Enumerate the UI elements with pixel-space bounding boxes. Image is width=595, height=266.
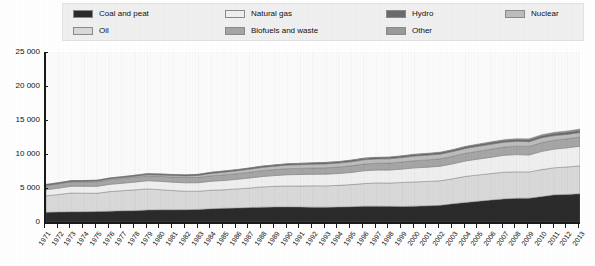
x-axis-tick-mark <box>44 224 45 228</box>
x-axis-tick-mark <box>489 224 490 228</box>
y-axis-tick-mark <box>44 120 48 121</box>
legend-column-3: HydroOther <box>386 4 433 38</box>
x-axis-tick-mark <box>476 224 477 228</box>
legend-label-gas: Natural gas <box>251 9 292 18</box>
legend-item-other: Other <box>386 23 433 38</box>
x-axis-tick-mark <box>171 224 172 228</box>
chart-legend: Coal and peatOil Natural gasBiofuels and… <box>62 3 584 41</box>
legend-label-oil: Oil <box>99 26 109 35</box>
x-axis-tick-mark <box>146 224 147 228</box>
x-axis-tick-mark <box>425 224 426 228</box>
x-axis-tick-mark <box>362 224 363 228</box>
y-axis-tick-mark <box>44 52 48 53</box>
y-axis-tick-label: 25 000 <box>2 48 40 56</box>
x-axis-tick-mark <box>464 224 465 228</box>
legend-column-4: Nuclear <box>505 4 559 21</box>
legend-label-nuclear: Nuclear <box>531 9 559 18</box>
legend-item-oil: Oil <box>73 23 149 38</box>
x-axis-tick-mark <box>69 224 70 228</box>
y-axis-tick-label: 10 000 <box>2 150 40 158</box>
x-axis-tick-mark <box>387 224 388 228</box>
x-axis-tick-mark <box>197 224 198 228</box>
y-axis-tick-label: 5 000 <box>2 184 40 192</box>
legend-swatch-gas <box>225 10 245 18</box>
legend-swatch-coal <box>73 10 93 18</box>
x-axis-tick-mark <box>375 224 376 228</box>
legend-column-1: Coal and peatOil <box>73 4 149 38</box>
chart-figure: Coal and peatOil Natural gasBiofuels and… <box>0 0 595 266</box>
legend-column-2: Natural gasBiofuels and waste <box>225 4 318 38</box>
x-axis-tick-mark <box>451 224 452 228</box>
legend-label-biofuels: Biofuels and waste <box>251 26 318 35</box>
x-axis-tick-mark <box>57 224 58 228</box>
x-axis-tick-mark <box>578 224 579 228</box>
y-axis-tick-label: 20 000 <box>2 82 40 90</box>
legend-label-other: Other <box>412 26 432 35</box>
stacked-areas <box>46 52 580 222</box>
legend-label-coal: Coal and peat <box>99 9 149 18</box>
x-axis-tick-mark <box>247 224 248 228</box>
x-axis-tick-mark <box>133 224 134 228</box>
x-axis-tick-mark <box>222 224 223 228</box>
x-axis-tick-mark <box>311 224 312 228</box>
x-axis-tick-mark <box>273 224 274 228</box>
x-axis-tick-mark <box>514 224 515 228</box>
legend-swatch-other <box>386 27 406 35</box>
legend-item-gas: Natural gas <box>225 6 318 21</box>
x-axis-tick-mark <box>209 224 210 228</box>
legend-item-coal: Coal and peat <box>73 6 149 21</box>
legend-swatch-oil <box>73 27 93 35</box>
legend-item-biofuels: Biofuels and waste <box>225 23 318 38</box>
y-axis-tick-mark <box>44 188 48 189</box>
x-axis-tick-mark <box>235 224 236 228</box>
x-axis-tick-mark <box>413 224 414 228</box>
legend-label-hydro: Hydro <box>412 9 433 18</box>
y-axis-tick-label: 0 <box>2 218 40 226</box>
y-axis-tick-mark <box>44 154 48 155</box>
x-axis-tick-mark <box>158 224 159 228</box>
y-axis-tick-mark <box>44 86 48 87</box>
legend-item-hydro: Hydro <box>386 6 433 21</box>
x-axis-tick-mark <box>540 224 541 228</box>
x-axis-tick-mark <box>400 224 401 228</box>
x-axis-tick-mark <box>349 224 350 228</box>
legend-item-nuclear: Nuclear <box>505 6 559 21</box>
x-axis-tick-mark <box>336 224 337 228</box>
x-axis-tick-mark <box>120 224 121 228</box>
x-axis-tick-mark <box>527 224 528 228</box>
legend-swatch-nuclear <box>505 10 525 18</box>
y-axis: 05 00010 00015 00020 00025 000 <box>0 0 40 266</box>
x-axis-tick-mark <box>324 224 325 228</box>
x-axis-tick-mark <box>565 224 566 228</box>
x-axis-tick-mark <box>95 224 96 228</box>
plot-area <box>44 52 580 224</box>
legend-swatch-hydro <box>386 10 406 18</box>
x-axis-tick-mark <box>298 224 299 228</box>
x-axis-tick-mark <box>286 224 287 228</box>
x-axis-tick-mark <box>184 224 185 228</box>
x-axis-tick-mark <box>108 224 109 228</box>
x-axis-tick-mark <box>82 224 83 228</box>
y-axis-tick-label: 15 000 <box>2 116 40 124</box>
x-axis-tick-mark <box>260 224 261 228</box>
x-axis-tick-mark <box>502 224 503 228</box>
x-axis-tick-mark <box>438 224 439 228</box>
legend-swatch-biofuels <box>225 27 245 35</box>
x-axis-tick-mark <box>553 224 554 228</box>
